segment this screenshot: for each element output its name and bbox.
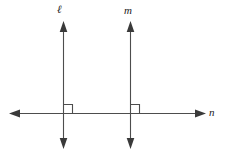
line-l: [60, 21, 68, 149]
right-angle-m-n-icon: [131, 105, 140, 114]
right-angle-l-n-icon: [64, 105, 73, 114]
line-n-arrowhead-right: [195, 110, 206, 118]
geometry-canvas: [0, 0, 226, 159]
line-l-arrowhead-bottom: [60, 138, 68, 149]
line-l-arrowhead-top: [60, 21, 68, 32]
line-m-arrowhead-bottom: [127, 138, 135, 149]
geometry-diagram: ℓ m n: [0, 0, 226, 159]
line-n: [9, 110, 206, 118]
line-n-label: n: [209, 107, 215, 118]
line-l-label: ℓ: [57, 4, 62, 15]
line-m-arrowhead-top: [127, 21, 135, 32]
line-m: [127, 21, 135, 149]
line-n-arrowhead-left: [9, 110, 20, 118]
line-m-label: m: [124, 5, 132, 16]
